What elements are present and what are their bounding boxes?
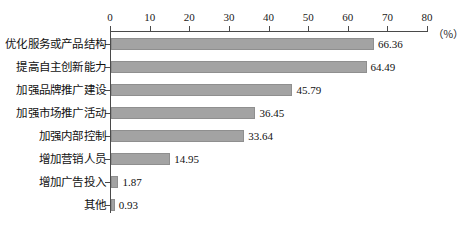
axis-tick: [150, 26, 151, 32]
category-label: 加强内部控制: [0, 128, 106, 144]
category-label: 优化服务或产品结构: [0, 36, 106, 52]
axis-tick: [308, 26, 309, 32]
axis-tick-label: 70: [382, 11, 393, 23]
bar-row: 其他0.93: [0, 194, 466, 217]
bar-row: 加强品牌推广建设45.79: [0, 79, 466, 102]
category-label: 增加广告投入: [0, 174, 106, 190]
bar-value-label: 45.79: [296, 82, 321, 98]
category-label: 其他: [0, 197, 106, 213]
bar-row: 优化服务或产品结构66.36: [0, 33, 466, 56]
bar-row: 加强内部控制33.64: [0, 125, 466, 148]
bar-row: 加强市场推广活动36.45: [0, 102, 466, 125]
axis-tick-label: 10: [144, 11, 155, 23]
bar-value-label: 1.87: [122, 174, 141, 190]
bar-row: 增加营销人员14.95: [0, 148, 466, 171]
bar-value-label: 36.45: [259, 105, 284, 121]
axis-tick: [229, 26, 230, 32]
category-label: 加强品牌推广建设: [0, 82, 106, 98]
bar: [111, 130, 244, 142]
bar-chart: 01020304050607080 （％） 优化服务或产品结构66.36提高自主…: [0, 0, 466, 237]
category-label: 提高自主创新能力: [0, 59, 106, 75]
bar-value-label: 33.64: [248, 128, 273, 144]
axis-tick-label: 0: [107, 11, 113, 23]
axis-tick-label: 40: [263, 11, 274, 23]
bar: [111, 176, 118, 188]
bar-row: 增加广告投入1.87: [0, 171, 466, 194]
axis-tick-label: 20: [184, 11, 195, 23]
bar-value-label: 66.36: [378, 36, 403, 52]
bar: [111, 84, 292, 96]
axis-tick: [348, 26, 349, 32]
bar: [111, 199, 115, 211]
bar-value-label: 14.95: [174, 151, 199, 167]
axis-tick: [269, 26, 270, 32]
bar-value-label: 0.93: [119, 197, 138, 213]
axis-tick: [110, 26, 111, 32]
axis-tick-label: 30: [223, 11, 234, 23]
category-label: 增加营销人员: [0, 151, 106, 167]
axis-tick: [189, 26, 190, 32]
axis-tick-label: 80: [422, 11, 433, 23]
axis-tick: [387, 26, 388, 32]
axis-tick-label: 60: [342, 11, 353, 23]
bar: [111, 107, 255, 119]
bar: [111, 61, 367, 73]
axis-tick: [427, 26, 428, 32]
bar-value-label: 64.49: [371, 59, 396, 75]
bar: [111, 38, 374, 50]
bar: [111, 153, 170, 165]
axis-tick-label: 50: [303, 11, 314, 23]
category-label: 加强市场推广活动: [0, 105, 106, 121]
bar-row: 提高自主创新能力64.49: [0, 56, 466, 79]
